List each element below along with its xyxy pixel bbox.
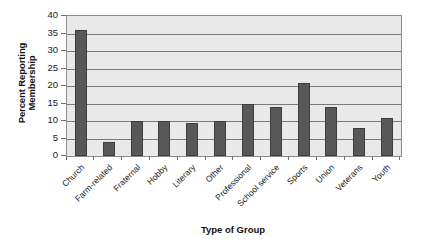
x-tick-mark bbox=[372, 156, 373, 160]
bar-slot bbox=[234, 16, 262, 156]
x-tick-mark bbox=[205, 156, 206, 160]
x-tick-mark bbox=[177, 156, 178, 160]
bar-slot bbox=[373, 16, 401, 156]
x-axis-category-label: Sports bbox=[285, 163, 309, 187]
x-axis-category-label: Youth bbox=[371, 163, 393, 185]
x-tick-mark bbox=[399, 156, 400, 160]
x-tick-mark bbox=[232, 156, 233, 160]
y-tick-label: 25 bbox=[47, 62, 58, 73]
x-axis-category-label: Union bbox=[315, 163, 337, 185]
y-tick-label: 5 bbox=[53, 132, 58, 143]
x-tick-mark bbox=[66, 156, 67, 160]
bar-slot bbox=[95, 16, 123, 156]
y-tick-label: 35 bbox=[47, 27, 58, 38]
bar-slot bbox=[67, 16, 95, 156]
bar-slot bbox=[206, 16, 234, 156]
bar bbox=[75, 30, 87, 156]
bar-slot bbox=[150, 16, 178, 156]
bar bbox=[131, 121, 143, 156]
x-axis-category-label: Hobby bbox=[146, 163, 170, 187]
y-axis-ticks: 0510152025303540 bbox=[0, 15, 66, 155]
x-tick-mark bbox=[149, 156, 150, 160]
y-tick-label: 0 bbox=[53, 149, 58, 160]
x-label-cell: Literary bbox=[177, 161, 205, 219]
bar-slot bbox=[317, 16, 345, 156]
x-tick-mark bbox=[93, 156, 94, 160]
y-tick-label: 40 bbox=[47, 9, 58, 20]
x-label-cell: School service bbox=[261, 161, 289, 219]
bar bbox=[298, 83, 310, 157]
x-label-cell: Sports bbox=[289, 161, 317, 219]
y-tick-label: 20 bbox=[47, 79, 58, 90]
bar bbox=[325, 107, 337, 156]
bar bbox=[214, 121, 226, 156]
x-label-cell: Veterans bbox=[344, 161, 372, 219]
y-tick-label: 15 bbox=[47, 97, 58, 108]
bar-slot bbox=[290, 16, 318, 156]
x-label-cell: Hobby bbox=[149, 161, 177, 219]
x-label-cell: Youth bbox=[372, 161, 400, 219]
x-tick-mark bbox=[260, 156, 261, 160]
bar bbox=[103, 142, 115, 156]
x-tick-mark bbox=[121, 156, 122, 160]
bar-slot bbox=[262, 16, 290, 156]
y-tick-label: 10 bbox=[47, 114, 58, 125]
x-tick-mark bbox=[288, 156, 289, 160]
x-axis-labels: ChurchFarm-relatedFraternalHobbyLiterary… bbox=[66, 161, 400, 219]
bar bbox=[186, 123, 198, 156]
x-axis-title: Type of Group bbox=[66, 224, 400, 235]
bar-slot bbox=[345, 16, 373, 156]
x-axis-category-label: Other bbox=[204, 163, 225, 184]
x-tick-mark bbox=[316, 156, 317, 160]
x-tick-mark bbox=[344, 156, 345, 160]
bar-slot bbox=[123, 16, 151, 156]
y-tick-label: 30 bbox=[47, 44, 58, 55]
bar-chart-figure: Percent Reporting Membership 05101520253… bbox=[0, 0, 424, 247]
bar bbox=[381, 118, 393, 157]
bar-slot bbox=[178, 16, 206, 156]
x-axis-category-label: Church bbox=[61, 163, 87, 189]
bar bbox=[270, 107, 282, 156]
x-label-cell: Fraternal bbox=[122, 161, 150, 219]
bar bbox=[158, 121, 170, 156]
bar bbox=[353, 128, 365, 156]
plot-area bbox=[66, 15, 402, 157]
bar bbox=[242, 104, 254, 157]
bars-layer bbox=[67, 16, 401, 156]
